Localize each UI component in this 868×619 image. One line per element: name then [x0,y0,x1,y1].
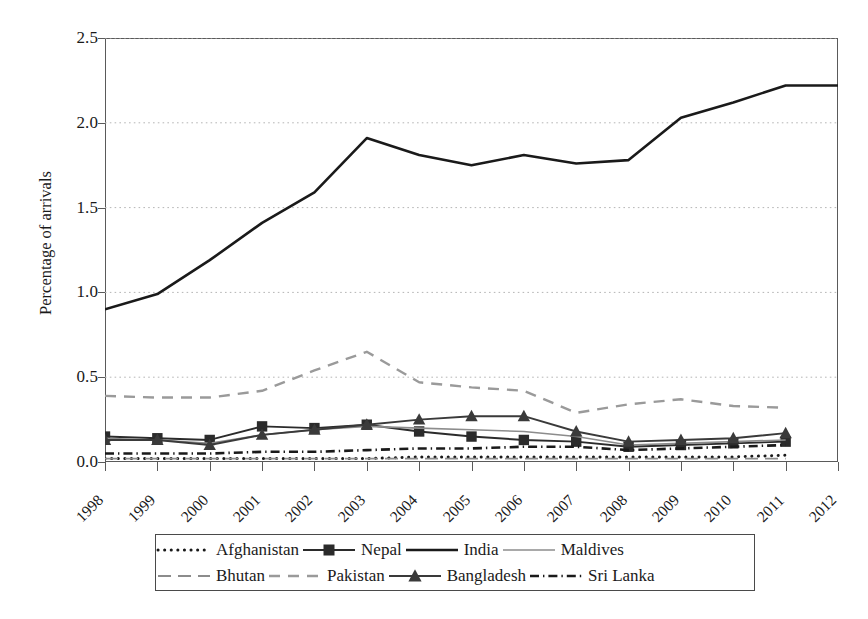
legend-label: Bhutan [212,566,267,586]
legend-item-sri-lanka[interactable]: Sri Lanka [528,563,657,589]
legend-item-afghanistan[interactable]: Afghanistan [156,537,301,563]
x-axis-tick-label: 2000 [177,491,212,526]
y-axis-tick-mark [98,292,105,293]
y-axis-tick-label: 0.5 [76,367,98,387]
x-axis-tick-mark [157,462,158,471]
x-axis-tick-mark [472,462,473,471]
y-axis-tick-label: 2.0 [76,113,98,133]
series-marker-square [571,436,581,446]
legend: AfghanistanNepalIndiaMaldives BhutanPaki… [155,534,755,591]
legend-label: Nepal [357,540,404,560]
y-axis-tick-label: 1.0 [76,282,98,302]
legend-item-bangladesh[interactable]: Bangladesh [387,563,528,589]
legend-item-india[interactable]: India [404,537,501,563]
legend-label: Afghanistan [212,540,301,560]
x-axis-tick-mark [314,462,315,471]
legend-key-icon [156,541,212,559]
legend-key-icon [301,541,357,559]
x-axis-tick-mark [629,462,630,471]
x-axis-tick-label: 2003 [334,491,369,526]
series-marker-square [466,431,476,441]
legend-item-nepal[interactable]: Nepal [301,537,404,563]
y-axis-tick-label: 0.0 [76,452,98,472]
series-marker-square [519,435,529,445]
legend-key-icon [267,567,323,585]
x-axis-tick-mark [419,462,420,471]
x-axis-tick-mark [576,462,577,471]
y-axis-tick-mark [98,462,105,463]
legend-label: Bangladesh [443,566,528,586]
x-axis-tick-label: 2010 [701,491,736,526]
legend-row-2: BhutanPakistanBangladeshSri Lanka [156,563,756,589]
plot-area [105,38,838,462]
x-axis-tick-mark [733,462,734,471]
y-axis-tick-mark [98,123,105,124]
series-marker-triangle [779,427,791,438]
x-axis-tick-label: 2006 [491,491,526,526]
y-axis-tick-mark [98,208,105,209]
legend-item-bhutan[interactable]: Bhutan [156,563,267,589]
x-axis-tick-label: 2004 [387,491,422,526]
x-axis-tick-label: 2001 [230,491,265,526]
x-axis-tick-mark [838,462,839,471]
x-axis-tick-label: 1998 [72,491,107,526]
x-axis-tick-label: 2011 [753,491,787,525]
series-line-india [105,85,838,309]
y-axis-tick-label: 2.5 [76,28,98,48]
x-axis-tick-labels: 1998199920002001200220032004200520062007… [105,472,838,528]
y-axis-tick-label: 1.5 [76,198,98,218]
series-layer [105,38,838,462]
x-axis-tick-mark [105,462,106,471]
legend-label: Sri Lanka [584,566,657,586]
legend-label: Pakistan [323,566,387,586]
x-axis-tick-label: 2007 [544,491,579,526]
legend-key-icon [501,541,557,559]
legend-row-1: AfghanistanNepalIndiaMaldives [156,537,756,563]
x-axis-tick-label: 2008 [596,491,631,526]
x-axis-tick-mark [262,462,263,471]
x-axis-tick-mark [786,462,787,471]
x-axis-tick-mark [524,462,525,471]
x-axis-tick-label: 1999 [125,491,160,526]
legend-item-maldives[interactable]: Maldives [501,537,626,563]
x-axis-tick-label: 2005 [439,491,474,526]
legend-label: India [460,540,501,560]
x-axis-tick-marks [105,462,838,471]
legend-label: Maldives [557,540,626,560]
legend-key-icon [528,567,584,585]
series-line-pakistan [105,352,786,413]
y-axis-tick-mark [98,377,105,378]
x-axis-tick-mark [681,462,682,471]
x-axis-tick-mark [210,462,211,471]
legend-key-icon [156,567,212,585]
legend-marker-square [324,545,335,556]
x-axis-tick-mark [367,462,368,471]
y-axis-tick-mark [98,38,105,39]
legend-item-pakistan[interactable]: Pakistan [267,563,387,589]
legend-key-icon [387,567,443,585]
x-axis-tick-label: 2002 [282,491,317,526]
x-axis-tick-label: 2009 [648,491,683,526]
legend-key-icon [404,541,460,559]
chart-figure: Percentage of arrivals 0.00.51.01.52.02.… [0,0,868,619]
y-axis-tick-labels: 0.00.51.01.52.02.5 [40,38,98,462]
x-axis-tick-label: 2012 [805,491,840,526]
